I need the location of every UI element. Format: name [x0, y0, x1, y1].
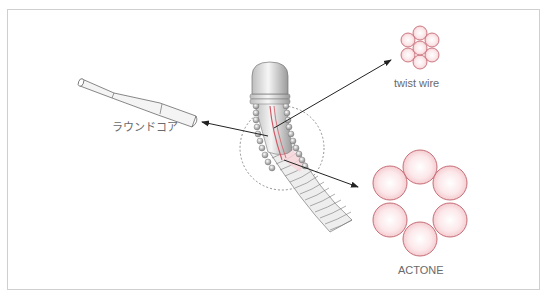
actone-label: ACTONE: [398, 264, 444, 276]
arrow-to-twist-wire: [274, 60, 391, 128]
guidewire-illustration: [250, 62, 352, 232]
twist-wire-illustration: [401, 26, 439, 69]
twist-wire-label: twist wire: [394, 77, 439, 89]
round-core-label: ラウンドコア: [112, 118, 178, 134]
actone-illustration: [373, 150, 467, 256]
guidewire-diagram: [0, 0, 548, 300]
